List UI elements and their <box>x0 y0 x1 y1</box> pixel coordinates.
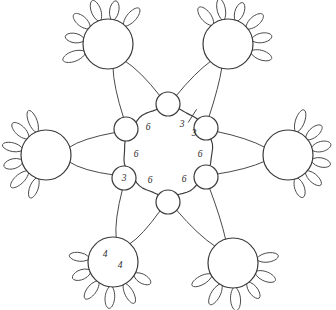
flower-node <box>263 130 313 180</box>
connector-edge <box>216 131 265 147</box>
flower-petal <box>72 269 91 280</box>
connector-edge <box>129 210 160 244</box>
flower-node <box>88 237 138 287</box>
flower-petal <box>247 281 260 298</box>
flower-node-label: 4 <box>118 260 123 270</box>
flower-node <box>208 238 258 288</box>
flower-petal <box>90 0 101 22</box>
hub-node <box>194 165 218 189</box>
flower-petal <box>2 142 23 152</box>
hub-node-label: 3 <box>121 173 127 183</box>
flower-petal <box>310 158 330 168</box>
flower-petal <box>73 13 90 29</box>
connector-edge <box>176 61 211 96</box>
edge-label: 6 <box>146 122 151 132</box>
flower-petal <box>27 110 38 133</box>
flower-petal <box>192 274 213 287</box>
flower-petal <box>12 123 29 140</box>
edge-label: 6 <box>182 174 187 184</box>
edge-label: 6 <box>134 149 139 159</box>
flower-petal <box>123 8 140 27</box>
flower-petal <box>234 3 245 23</box>
flower-graph-svg: 3 633666644 <box>0 0 336 310</box>
flower-petal <box>305 170 321 185</box>
connector-edge <box>116 189 123 238</box>
flower-petal <box>11 171 30 188</box>
flower-node-label: 4 <box>103 249 108 259</box>
flower-petal <box>250 50 272 61</box>
flower-petal <box>29 177 40 198</box>
connector-edge <box>113 67 124 118</box>
connector-edges-group <box>69 61 265 247</box>
flower-petal <box>217 0 226 21</box>
flower-node <box>83 19 133 69</box>
connector-edge <box>69 162 113 175</box>
hub-node <box>114 117 138 141</box>
hub-node <box>194 116 218 140</box>
flower-petal <box>123 282 135 303</box>
connector-edge <box>69 132 116 147</box>
flower-petal <box>246 14 264 30</box>
flower-petal <box>63 50 87 62</box>
flower-petal <box>65 33 85 43</box>
flower-petal <box>256 253 279 263</box>
connector-edge <box>125 61 160 96</box>
flower-petal <box>84 280 99 299</box>
edge-label: 3 <box>179 119 185 129</box>
connector-edge <box>176 210 215 247</box>
flower-petal <box>305 125 322 140</box>
diagram-canvas: 3 633666644 <box>0 0 336 310</box>
flower-petal <box>109 1 119 22</box>
flower-node <box>21 130 71 180</box>
hub-node <box>156 190 180 214</box>
connector-edge <box>209 187 226 240</box>
flower-petal <box>254 271 275 283</box>
hub-node <box>156 92 180 116</box>
flower-petal <box>310 141 331 152</box>
flower-petal <box>231 286 241 310</box>
flower-petal <box>198 7 214 26</box>
flower-petal <box>4 158 24 169</box>
connector-edge <box>217 161 265 174</box>
edge-label: 3 <box>191 128 197 138</box>
edge-label: 6 <box>148 175 153 185</box>
edge-label: 6 <box>198 149 203 159</box>
cycle-cut-tick-icon <box>188 110 196 123</box>
flower-petal <box>105 285 115 308</box>
flower-petal <box>133 273 151 285</box>
flower-petal <box>69 252 90 261</box>
flower-petal <box>294 177 305 198</box>
flower-node <box>203 19 253 69</box>
flower-petal <box>294 110 305 134</box>
flower-petal <box>251 33 272 43</box>
connector-edge <box>209 67 222 117</box>
flower-petal <box>209 283 223 305</box>
